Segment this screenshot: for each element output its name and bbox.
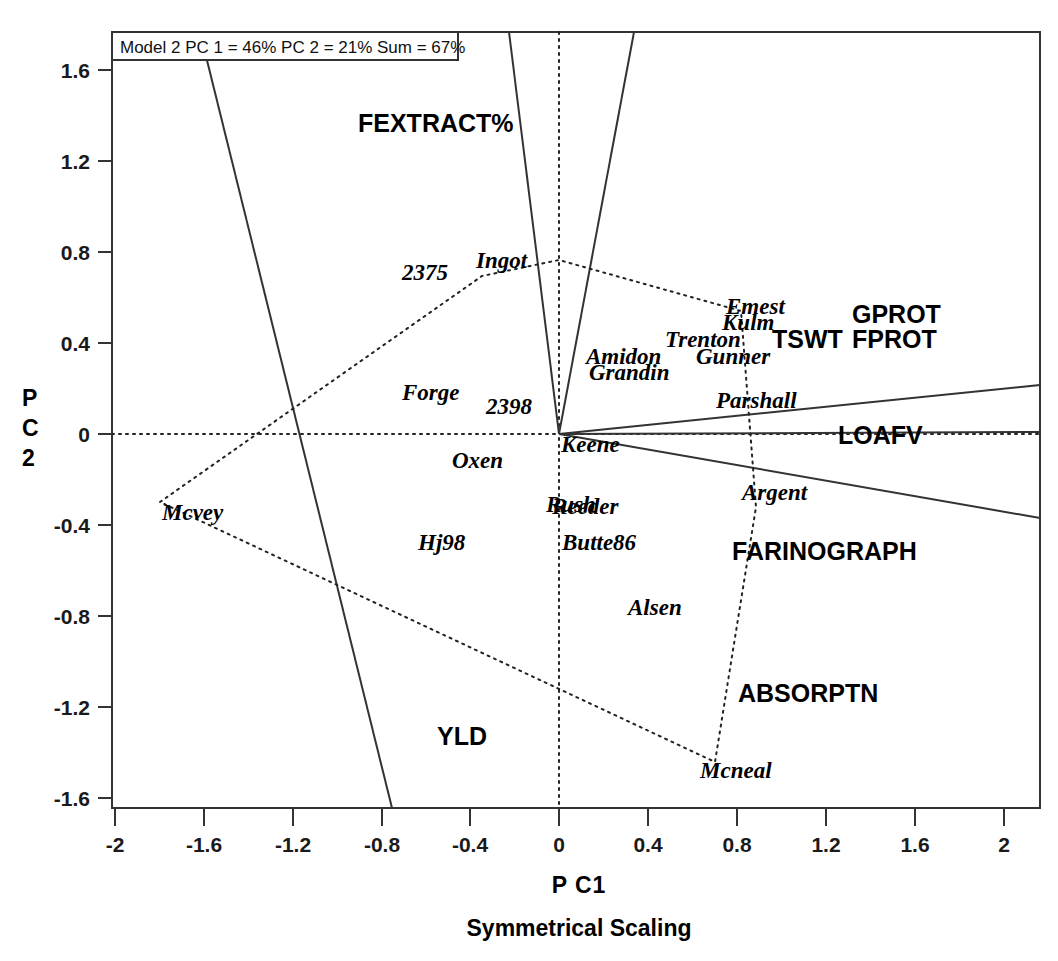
site-label-butte86: Butte86	[561, 530, 637, 555]
y-axis-tick-labels: 1.6 1.2 0.8 0.4 0 -0.4 -0.8 -1.2 -1.6	[54, 59, 91, 810]
y-axis-title-line-2: 2	[22, 445, 36, 471]
ytick-7: -1.2	[54, 696, 90, 719]
xtick-0: -2	[106, 833, 125, 856]
xtick-4: -0.4	[452, 833, 489, 856]
site-label-parshall: Parshall	[715, 388, 797, 413]
variable-label-farinograph: FARINOGRAPH	[732, 537, 917, 565]
site-labels: 2375 Ingot Emest Kulm Trenton Gunner Ami…	[161, 248, 808, 783]
variable-label-fextract: FEXTRACT%	[358, 109, 514, 137]
site-label-oxen: Oxen	[452, 448, 503, 473]
ytick-2: 0.8	[61, 241, 91, 264]
xtick-2: -1.2	[275, 833, 311, 856]
x-axis-tick-labels: -2 -1.6 -1.2 -0.8 -0.4 0 0.4 0.8 1.2 1.6…	[106, 833, 1010, 856]
x-axis-title: P C1	[552, 872, 607, 898]
y-axis-title: P C 2	[22, 385, 40, 471]
xtick-6: 0.4	[633, 833, 663, 856]
variable-label-gprot: GPROT	[852, 300, 941, 328]
site-label-reeder: Reeder	[551, 494, 619, 519]
vector-yld	[200, 32, 392, 808]
site-label-keene: Keene	[560, 432, 620, 457]
xtick-5: 0	[553, 833, 565, 856]
xtick-8: 1.2	[811, 833, 840, 856]
biplot-svg: 1.6 1.2 0.8 0.4 0 -0.4 -0.8 -1.2 -1.6 -2	[0, 0, 1058, 961]
variable-label-tswt: TSWT	[772, 325, 843, 353]
xtick-9: 1.6	[900, 833, 929, 856]
site-label-gunner: Gunner	[696, 344, 771, 369]
y-axis-ticks	[98, 70, 112, 798]
xtick-3: -0.8	[364, 833, 401, 856]
x-axis-ticks	[115, 808, 1004, 826]
biplot-figure: 1.6 1.2 0.8 0.4 0 -0.4 -0.8 -1.2 -1.6 -2	[0, 0, 1058, 961]
y-axis-title-line-1: C	[22, 415, 40, 441]
ytick-5: -0.4	[54, 514, 91, 537]
ytick-0: 1.6	[61, 59, 90, 82]
variable-label-absorptn: ABSORPTN	[738, 679, 878, 707]
figure-caption: Symmetrical Scaling	[467, 915, 692, 941]
ytick-4: 0	[78, 423, 90, 446]
variable-labels: FEXTRACT% GPROT FPROT TSWT LOAFV FARINOG…	[358, 109, 941, 750]
site-label-mcneal: Mcneal	[699, 758, 772, 783]
variable-label-fprot: FPROT	[852, 325, 937, 353]
site-label-mcvey: Mcvey	[161, 500, 224, 525]
ytick-1: 1.2	[61, 150, 90, 173]
vector-fextract-left	[509, 32, 559, 434]
variable-vectors	[200, 32, 1040, 808]
ytick-8: -1.6	[54, 787, 90, 810]
site-label-argent: Argent	[740, 480, 808, 505]
vector-gprot-fprot-tswt	[559, 385, 1040, 434]
site-label-alsen: Alsen	[626, 595, 682, 620]
xtick-10: 2	[998, 833, 1010, 856]
site-label-forge: Forge	[401, 380, 460, 405]
y-axis-title-line-0: P	[22, 385, 38, 411]
ytick-3: 0.4	[61, 332, 91, 355]
site-label-2375: 2375	[401, 260, 448, 285]
site-label-grandin: Grandin	[589, 360, 670, 385]
xtick-7: 0.8	[722, 833, 752, 856]
plot-frame	[112, 32, 1040, 808]
variable-label-loafv: LOAFV	[838, 421, 923, 449]
site-label-ingot: Ingot	[475, 248, 528, 273]
vector-farinograph-absorptn	[559, 434, 1040, 518]
variable-label-yld: YLD	[437, 722, 487, 750]
annotation-text: Model 2 PC 1 = 46% PC 2 = 21% Sum = 67%	[120, 38, 465, 57]
ytick-6: -0.8	[54, 605, 91, 628]
xtick-1: -1.6	[186, 833, 222, 856]
site-label-hj98: Hj98	[417, 530, 466, 555]
site-label-2398: 2398	[485, 394, 533, 419]
